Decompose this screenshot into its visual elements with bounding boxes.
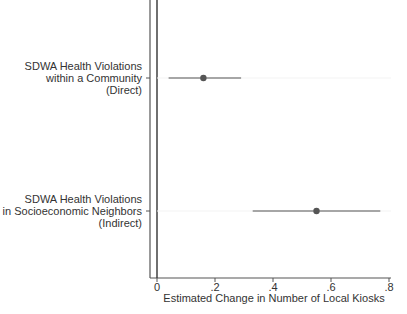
coefficient-plot: SDWA Health Violationswithin a Community… [0, 0, 407, 314]
point-estimate-marker [313, 208, 319, 214]
label-line: (Indirect) [3, 217, 142, 229]
point-estimate-marker [200, 75, 206, 81]
label-line: within a Community [25, 72, 142, 84]
x-axis-title: Estimated Change in Number of Local Kios… [163, 292, 384, 304]
plot-area [0, 0, 407, 314]
x-tick-label: 0 [154, 281, 160, 293]
y-category-label: SDWA Health Violationswithin a Community… [25, 60, 142, 96]
x-tick-label: .8 [384, 281, 393, 293]
label-line: SDWA Health Violations [3, 193, 142, 205]
data-points [157, 75, 391, 214]
label-line: in Socioeconomic Neighbors [3, 205, 142, 217]
label-line: SDWA Health Violations [25, 60, 142, 72]
y-category-label: SDWA Health Violationsin Socioeconomic N… [3, 193, 142, 229]
label-line: (Direct) [25, 84, 142, 96]
